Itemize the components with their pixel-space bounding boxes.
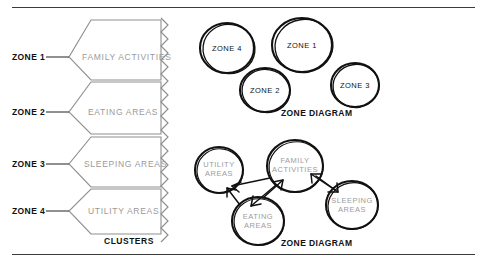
- zone-list-label-1: ZONE 1: [12, 52, 45, 62]
- diagram-page: .cl { fill:#ffffff; stroke:#8f8f8f; stro…: [0, 0, 485, 266]
- bottom-divider-rule: [12, 254, 475, 255]
- cluster-name-sleeping-areas: SLEEPING AREAS: [84, 159, 167, 169]
- cluster-name-utility-areas: UTILITY AREAS: [88, 206, 159, 216]
- zone-diagram-top-caption: ZONE DIAGRAM: [281, 108, 352, 118]
- zone-bubble-label-sleeping-areas: SLEEPING AREAS: [327, 196, 377, 214]
- clusters-shapes: .cl { fill:#ffffff; stroke:#8f8f8f; stro…: [0, 0, 485, 266]
- zone-bubble-label-zone-1: ZONE 1: [277, 41, 327, 50]
- zone-list-label-4: ZONE 4: [12, 206, 45, 216]
- zone-bubble-label-zone-4: ZONE 4: [202, 44, 252, 53]
- zone-bubble-label-utility-areas: UTILITY AREAS: [194, 160, 244, 178]
- cluster-name-family-activities: FAMILY ACTIVITIES: [82, 52, 172, 62]
- zone-bubble-label-zone-3: ZONE 3: [330, 81, 380, 90]
- clusters-caption: CLUSTERS: [104, 236, 154, 246]
- zone-bubble-label-eating-areas: EATING AREAS: [233, 212, 283, 230]
- zone-diagram-top-shapes: .hand { fill:none; stroke:#111; stroke-w…: [0, 0, 485, 266]
- zone-bubble-label-family-activities: FAMILY ACTIVITIES: [265, 156, 325, 174]
- zone-diagram-bottom-shapes: .hb { fill:none; stroke:#111; stroke-wid…: [0, 0, 485, 266]
- zone-list-label-2: ZONE 2: [12, 107, 45, 117]
- cluster-name-eating-areas: EATING AREAS: [88, 107, 158, 117]
- zone-list-label-3: ZONE 3: [12, 159, 45, 169]
- zone-diagram-bottom-caption: ZONE DIAGRAM: [281, 238, 352, 248]
- zone-bubble-label-zone-2: ZONE 2: [240, 86, 290, 95]
- top-divider-rule: [12, 7, 475, 8]
